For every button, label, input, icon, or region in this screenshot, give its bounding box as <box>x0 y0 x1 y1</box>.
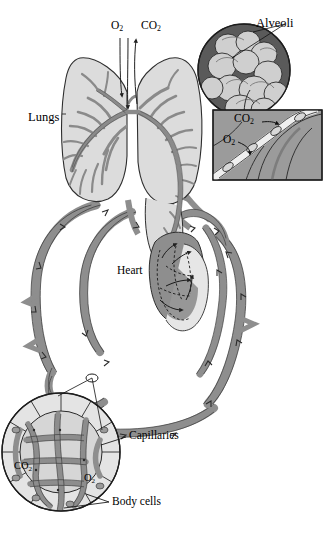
co2-base: CO <box>141 19 157 31</box>
label-o2-inset: O2 <box>223 134 235 147</box>
label-co2-tissue: CO2 <box>14 461 32 473</box>
co2-sub: 2 <box>29 465 33 473</box>
label-lungs: Lungs <box>28 111 59 124</box>
co2-base: CO <box>14 460 29 471</box>
left-lung <box>62 58 129 202</box>
label-o2-tissue: O2 <box>84 473 95 485</box>
co2-base: CO <box>234 112 250 124</box>
label-o2-inhaled: O2 <box>111 20 123 33</box>
capillary-inset <box>2 374 120 511</box>
label-alveoli: Alveoli <box>256 17 294 30</box>
o2-sub: 2 <box>92 477 96 485</box>
o2-sub: 2 <box>231 138 235 147</box>
heart <box>149 232 208 331</box>
figure-canvas: Lungs Heart Alveoli Capillaries Body cel… <box>0 0 326 541</box>
o2-base: O <box>84 472 92 483</box>
label-body-cells: Body cells <box>112 496 161 508</box>
label-co2-exhaled: CO2 <box>141 20 161 33</box>
alveoli-inset <box>198 24 290 122</box>
diagram-artwork <box>0 0 326 541</box>
o2-sub: 2 <box>119 24 123 33</box>
co2-sub: 2 <box>250 117 254 126</box>
label-co2-inset: CO2 <box>234 113 254 126</box>
label-heart: Heart <box>117 265 143 277</box>
label-capillaries: Capillaries <box>129 430 179 442</box>
co2-sub: 2 <box>157 24 161 33</box>
